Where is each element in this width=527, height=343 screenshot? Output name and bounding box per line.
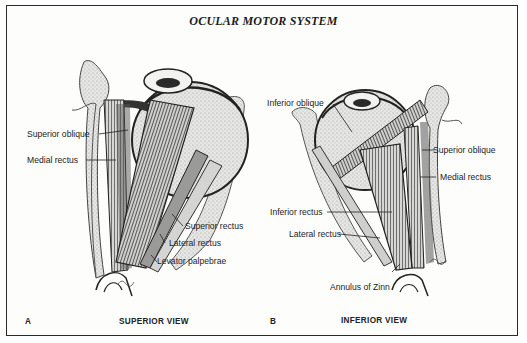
label-levator-palpebrae-a: Levator palpebrae [157,256,226,266]
label-annulus-of-zinn-b: Annulus of Zinn [330,282,390,292]
label-inferior-rectus-b: Inferior rectus [270,207,323,217]
label-lateral-rectus-a: Lateral rectus [169,238,221,248]
caption-superior-view: SUPERIOR VIEW [119,317,189,326]
panel-letter-b: B [270,317,276,326]
label-medial-rectus-b: Medial rectus [440,172,491,182]
inferior-view-illustration [292,85,462,296]
caption-inferior-view: INFERIOR VIEW [341,316,407,325]
label-superior-oblique-a: Superior oblique [27,129,90,139]
label-superior-oblique-b: Superior oblique [433,145,496,155]
panel-letter-a: A [25,317,31,326]
label-inferior-oblique-b: Inferior oblique [267,98,324,108]
label-superior-rectus-a: Superior rectus [185,221,243,231]
label-medial-rectus-a: Medial rectus [27,155,78,165]
label-lateral-rectus-b: Lateral rectus [289,229,341,239]
